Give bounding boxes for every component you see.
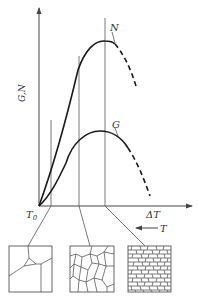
microstructure-fine: [128, 246, 171, 292]
curve-n-label: N: [109, 22, 120, 33]
microstructure-medium: [70, 246, 114, 292]
curve-g-label: G: [112, 119, 120, 130]
curve-g-dashed: [128, 148, 150, 196]
temperature-label: T: [160, 223, 168, 234]
nucleation-growth-diagram: N G G,N T0 ΔT T: [0, 0, 198, 303]
curve-n-dashed: [115, 44, 136, 86]
microstructure-coarse: [9, 246, 52, 292]
curve-n: [39, 41, 115, 206]
connector-2: [79, 206, 90, 246]
curve-n-leader: [112, 32, 115, 43]
y-axis-label: G,N: [17, 83, 27, 102]
origin-label: T0: [26, 209, 38, 222]
connector-3: [105, 206, 145, 246]
origin-label-sub: 0: [33, 214, 38, 222]
x-axis-label: ΔT: [145, 209, 161, 220]
